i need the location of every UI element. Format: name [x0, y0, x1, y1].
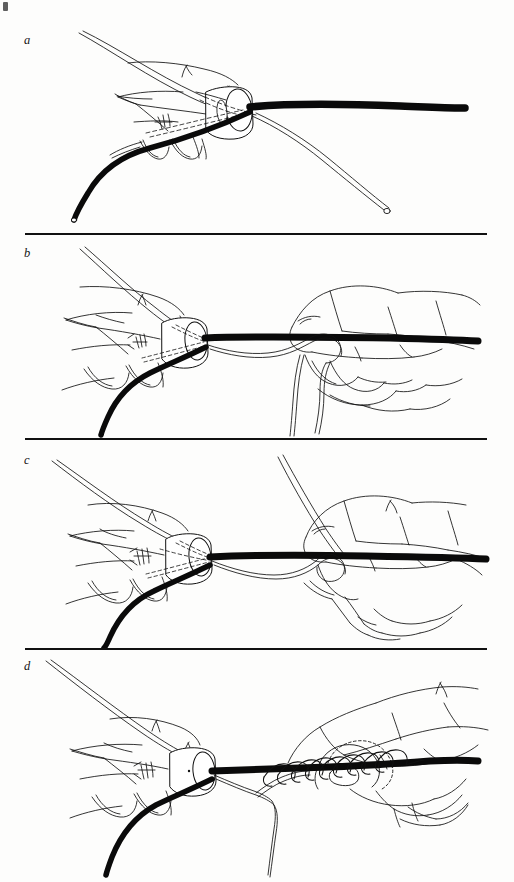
panel-b-artwork [0, 235, 514, 438]
panel-d: d [0, 651, 514, 882]
divider-3 [25, 648, 487, 650]
panel-c: c [0, 441, 514, 648]
panel-c-artwork [0, 441, 514, 648]
figure-root: a [0, 0, 514, 882]
panel-b: b [0, 235, 514, 438]
divider-2 [25, 438, 487, 440]
panel-d-artwork [0, 651, 514, 882]
panel-a-artwork [0, 0, 514, 233]
panel-a: a [0, 0, 514, 233]
